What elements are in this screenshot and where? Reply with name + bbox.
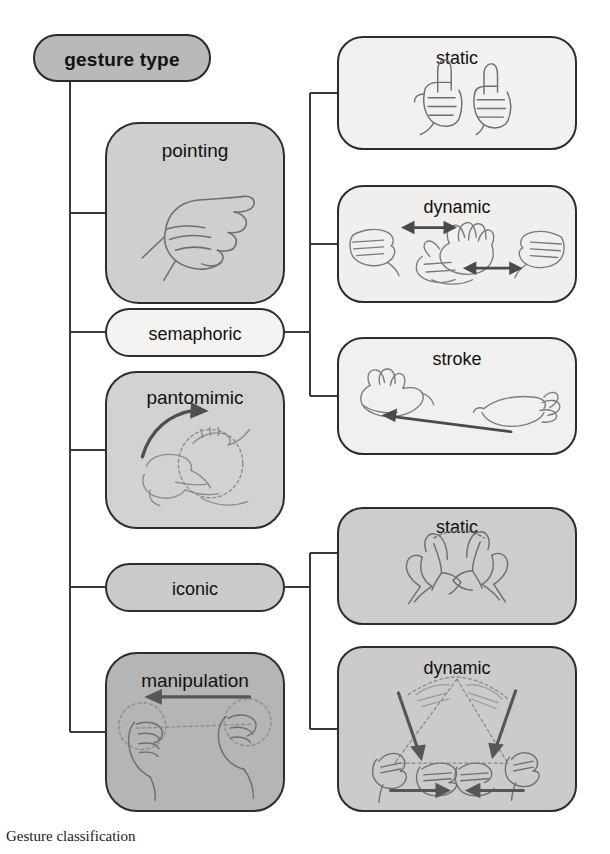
figure-caption: Gesture classification — [6, 828, 236, 850]
node-iconic-static[interactable]: static — [337, 507, 577, 625]
node-gesture-type[interactable]: gesture type — [33, 34, 211, 82]
node-label: dynamic — [339, 197, 575, 218]
node-label: static — [339, 48, 575, 69]
gesture-type-taxonomy-diagram: gesture type pointing semaphoric pantomi… — [0, 0, 610, 854]
node-manipulation[interactable]: manipulation — [105, 652, 285, 812]
node-semaphoric-static[interactable]: static — [337, 36, 577, 150]
node-iconic[interactable]: iconic — [105, 563, 285, 612]
node-label: semaphoric — [107, 324, 283, 345]
node-label: pantomimic — [107, 387, 283, 409]
node-iconic-dynamic[interactable]: dynamic — [337, 646, 577, 812]
node-semaphoric[interactable]: semaphoric — [105, 308, 285, 357]
node-label: manipulation — [107, 670, 283, 692]
node-semaphoric-stroke[interactable]: stroke — [337, 337, 577, 455]
node-pointing[interactable]: pointing — [105, 122, 285, 304]
node-label: iconic — [107, 579, 283, 600]
node-label: stroke — [339, 349, 575, 370]
node-pantomimic[interactable]: pantomimic — [105, 371, 285, 529]
node-label: gesture type — [35, 49, 209, 71]
node-semaphoric-dynamic[interactable]: dynamic — [337, 185, 577, 303]
node-label: static — [339, 517, 575, 538]
node-label: pointing — [107, 140, 283, 162]
node-label: dynamic — [339, 658, 575, 679]
